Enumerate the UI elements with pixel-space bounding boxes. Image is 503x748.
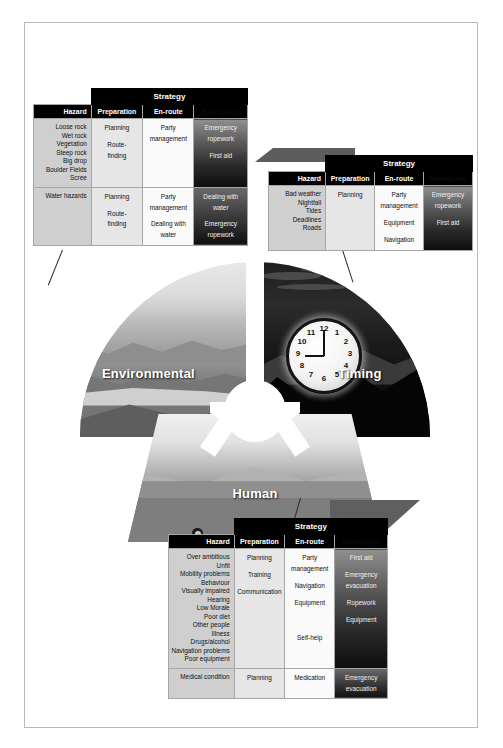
table-row: Hazard Preparation En-route Emergency — [169, 535, 388, 549]
table-row: Medical condition Planning Medication Em… — [169, 668, 388, 699]
cell-en-route: Partymanagement — [143, 119, 194, 188]
cell-preparation: PlanningRoute-finding — [91, 119, 142, 188]
cell-en-route: PartymanagementDealing withwater — [143, 187, 194, 246]
column-header-preparation: Preparation — [326, 172, 375, 186]
cell-hazard: Water hazards — [34, 187, 92, 246]
column-header-hazard: Hazard — [34, 105, 92, 119]
column-header-preparation: Preparation — [234, 535, 284, 549]
column-header-emergency: Emergency — [335, 535, 388, 549]
table-row: Strategy — [169, 519, 388, 535]
wheel-hub — [224, 380, 286, 442]
table-row: Water hazards PlanningRoute-finding Part… — [34, 187, 248, 246]
table-row: Bad weatherNightfallTidesDeadlinesRoads … — [269, 186, 473, 251]
cell-en-route: PartymanagementNavigationEquipmentSelf-h… — [285, 549, 335, 669]
strategy-header: Strategy — [234, 519, 387, 535]
clock-number: 2 — [340, 338, 352, 346]
clock-number: 7 — [305, 371, 317, 379]
strategy-header: Strategy — [91, 89, 247, 105]
clock-number: 9 — [292, 350, 304, 358]
cell-preparation: Planning — [326, 186, 375, 251]
column-header-emergency: Emergency — [194, 105, 248, 119]
cell-hazard: Loose rockWet rockVegetationSteep rockBi… — [34, 119, 92, 188]
cell-hazard: Bad weatherNightfallTidesDeadlinesRoads — [269, 186, 326, 251]
column-header-en-route: En-route — [375, 172, 424, 186]
table-row: Hazard Preparation En-route Emergency — [34, 105, 248, 119]
column-header-en-route: En-route — [285, 535, 335, 549]
clock-hour-hand — [305, 355, 324, 357]
cell-preparation: PlanningTrainingCommunication — [234, 549, 284, 669]
cell-emergency: Emergencyevacuation — [335, 668, 388, 699]
clock-minute-hand — [323, 330, 325, 356]
cell-en-route: PartymanagementEquipmentNavigation — [375, 186, 424, 251]
table-row: Hazard Preparation En-route Emergency — [269, 172, 473, 186]
clock-number: 10 — [296, 338, 308, 346]
strategy-table-timing: Strategy Hazard Preparation En-route Eme… — [268, 155, 473, 251]
clock-number: 3 — [344, 350, 356, 358]
segment-label-environmental: Environmental — [102, 366, 195, 381]
clock-number: 11 — [305, 329, 317, 337]
strategy-table-environmental: Strategy Hazard Preparation En-route Eme… — [33, 88, 248, 246]
sun-icon — [388, 292, 418, 322]
column-header-preparation: Preparation — [91, 105, 142, 119]
cell-hazard: Medical condition — [169, 668, 235, 699]
clock-number: 1 — [331, 329, 343, 337]
table-row: Loose rockWet rockVegetationSteep rockBi… — [34, 119, 248, 188]
column-header-hazard: Hazard — [169, 535, 235, 549]
strategy-header: Strategy — [326, 156, 473, 172]
cell-preparation: PlanningRoute-finding — [91, 187, 142, 246]
table-row: Strategy — [269, 156, 473, 172]
table-row: Over ambitiousUnfitMobility problemsBeha… — [169, 549, 388, 669]
segment-label-timing: Timing — [338, 366, 382, 381]
clock-number: 8 — [296, 362, 308, 370]
strategy-table-human: Strategy Hazard Preparation En-route Eme… — [168, 518, 388, 699]
segment-label-human: Human — [80, 486, 430, 501]
cell-emergency: Dealing withwaterEmergencyropework — [194, 187, 248, 246]
clock-icon: 12 1 2 3 4 5 6 7 8 9 10 11 — [286, 318, 362, 394]
spacer-cell — [169, 519, 235, 535]
column-header-emergency: Emergency — [424, 172, 473, 186]
clock-number: 6 — [318, 375, 330, 383]
column-header-hazard: Hazard — [269, 172, 326, 186]
cell-emergency: First aidEmergencyevacuationRopeworkEqui… — [335, 549, 388, 669]
spacer-cell — [34, 89, 92, 105]
column-header-en-route: En-route — [143, 105, 194, 119]
cell-emergency: EmergencyropeworkFirst aid — [424, 186, 473, 251]
cell-hazard: Over ambitiousUnfitMobility problemsBeha… — [169, 549, 235, 669]
table-row: Strategy — [34, 89, 248, 105]
spacer-cell — [269, 156, 326, 172]
wheel-spoke — [246, 260, 264, 386]
cell-en-route: Medication — [285, 668, 335, 699]
cell-emergency: EmergencyropeworkFirst aid — [194, 119, 248, 188]
cell-preparation: Planning — [234, 668, 284, 699]
